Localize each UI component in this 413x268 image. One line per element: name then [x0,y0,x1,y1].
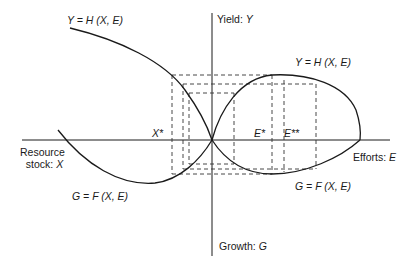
resource-axis-text-line2: stock: [26,158,53,170]
growth-curve-right-label: G = F (X, E) [295,180,351,192]
growth-curve-left-text: G = F (X, E) [72,190,128,202]
yield-curve-right-text: Y = H (X, E) [295,56,351,68]
diagram-canvas [0,0,413,268]
efforts-axis-var: E [389,151,396,163]
resource-axis-text-line1: Resource [20,146,65,158]
yield-curve-right-label: Y = H (X, E) [295,56,351,68]
growth-axis-label: Growth: G [219,240,267,252]
resource-axis-line2: stock: X [20,158,65,170]
growth-curve-right-text: G = F (X, E) [295,180,351,192]
yield-curve-left-text: Y = H (X, E) [67,14,123,26]
efforts-axis-label: Efforts: E [353,151,396,163]
x-star-marker: X* [152,127,163,139]
resource-axis-label: Resource stock: X [20,146,65,170]
resource-axis-var: X [56,158,63,170]
e-star-marker: E* [254,127,265,139]
efforts-axis-text: Efforts: [353,151,386,163]
yield-axis-text: Yield: [217,13,243,25]
e-star-star-marker: E** [284,127,299,139]
growth-curve-left-label: G = F (X, E) [72,190,128,202]
yield-axis-var: Y [246,13,253,25]
growth-axis-var: G [259,240,267,252]
yield-curve-left-label: Y = H (X, E) [67,14,123,26]
dashed-guides [172,75,316,174]
yield-axis-label: Yield: Y [217,13,253,25]
growth-axis-text: Growth: [219,240,256,252]
bioeconomic-four-quadrant-diagram: Y = H (X, E) Y = H (X, E) G = F (X, E) G… [0,0,413,268]
